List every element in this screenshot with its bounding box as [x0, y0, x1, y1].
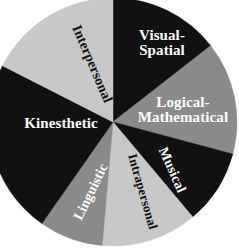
slice-label-line-2: Spatial	[139, 42, 185, 58]
slice-label-line-1: Visual-	[139, 27, 185, 43]
multiple-intelligences-pie-figure: Visual-Spatial Logical-Mathematical Musi…	[0, 0, 239, 250]
slice-label-line-2: Mathematical	[138, 109, 228, 125]
slice-label-kinesthetic: Kinesthetic	[13, 116, 109, 131]
slice-label-line-1: Logical-	[156, 94, 209, 110]
slice-label-logical-mathematical: Logical-Mathematical	[131, 95, 235, 126]
slice-label-visual-spatial: Visual-Spatial	[121, 28, 203, 59]
